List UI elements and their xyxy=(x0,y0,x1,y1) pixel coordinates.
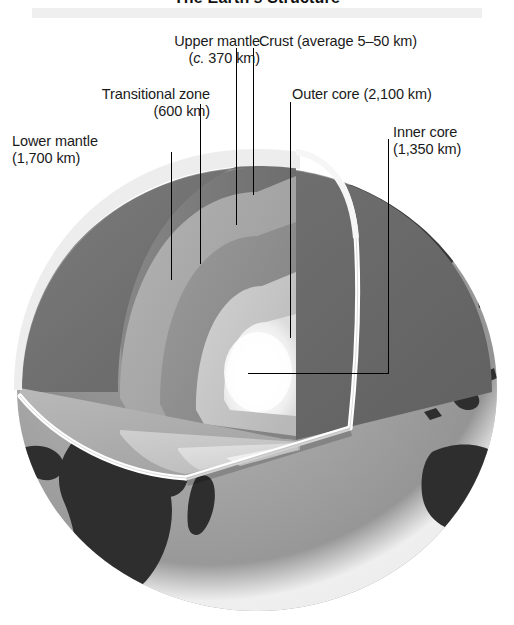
leader-line-lower-mantle xyxy=(171,152,172,280)
leader-line-inner-core xyxy=(388,139,389,373)
label-crust-line1: Crust (average 5–50 km) xyxy=(259,33,417,49)
leader-line-inner-core-horiz xyxy=(248,373,389,374)
leader-line-outer-core xyxy=(290,102,291,338)
label-inner-core-line2: (1,350 km) xyxy=(393,141,461,158)
label-transitional-zone: Transitional zone (600 km) xyxy=(30,86,210,120)
label-lower-mantle-line1: Lower mantle xyxy=(12,133,98,149)
label-transitional-zone-line1: Transitional zone xyxy=(102,86,210,102)
label-upper-mantle-line2: (c. 370 km) xyxy=(110,50,260,67)
earth-structure-figure: The Earth's Structure xyxy=(0,0,514,625)
label-outer-core-line1: Outer core (2,100 km) xyxy=(292,86,432,102)
label-upper-mantle-circa: c. xyxy=(193,50,204,66)
label-upper-mantle: Upper mantle (c. 370 km) xyxy=(110,33,260,67)
label-crust: Crust (average 5–50 km) xyxy=(259,33,417,50)
label-transitional-zone-line2: (600 km) xyxy=(30,103,210,120)
label-inner-core: Inner core (1,350 km) xyxy=(393,124,461,158)
leader-line-transitional xyxy=(200,104,201,264)
label-lower-mantle: Lower mantle (1,700 km) xyxy=(12,133,172,167)
label-outer-core: Outer core (2,100 km) xyxy=(292,86,432,103)
label-lower-mantle-line2: (1,700 km) xyxy=(12,150,172,167)
label-inner-core-line1: Inner core xyxy=(393,124,457,140)
label-upper-mantle-value: 370 km) xyxy=(204,50,260,66)
leader-line-crust xyxy=(253,48,254,195)
leader-line-upper-mantle xyxy=(236,48,237,225)
label-upper-mantle-line1: Upper mantle xyxy=(174,33,260,49)
